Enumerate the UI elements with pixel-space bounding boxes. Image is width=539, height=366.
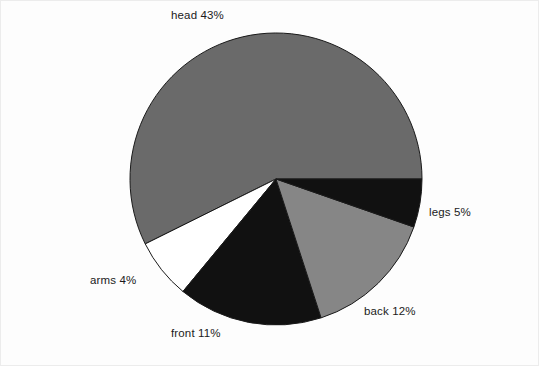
pie-label-front: front 11% xyxy=(171,327,221,340)
pie-slice-group xyxy=(130,33,422,325)
chart-figure-frame: head 43% legs 5% back 12% front 11% arms… xyxy=(0,0,539,366)
pie-chart-svg xyxy=(1,1,539,366)
pie-label-legs: legs 5% xyxy=(429,206,471,219)
pie-label-back: back 12% xyxy=(364,305,416,318)
pie-label-arms: arms 4% xyxy=(90,274,136,287)
pie-label-head: head 43% xyxy=(171,9,224,22)
